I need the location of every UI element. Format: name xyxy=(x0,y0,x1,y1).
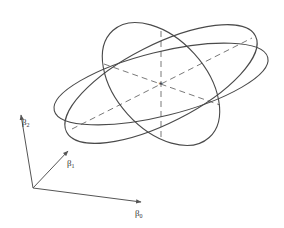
beta0-axis xyxy=(33,188,141,202)
beta1-label: β1 xyxy=(67,158,75,169)
ellipsoid: * xyxy=(47,0,276,167)
beta0-label: β0 xyxy=(135,208,143,219)
center-marker: * xyxy=(159,81,163,90)
coordinate-frame: β2 β1 β0 xyxy=(21,115,143,219)
ellipsoid-diagram: * β2 β1 β0 xyxy=(0,0,284,228)
beta2-label: β2 xyxy=(22,117,30,128)
beta1-axis xyxy=(33,151,68,188)
